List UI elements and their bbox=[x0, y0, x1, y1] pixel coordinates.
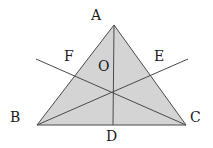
label-c: C bbox=[190, 109, 201, 125]
label-a: A bbox=[90, 7, 102, 23]
label-e: E bbox=[154, 48, 164, 64]
label-f: F bbox=[64, 48, 74, 64]
label-o: O bbox=[98, 58, 109, 74]
triangle-diagram: A B C D E F O bbox=[0, 0, 213, 148]
label-d: D bbox=[106, 128, 117, 144]
triangle-abc bbox=[37, 25, 186, 125]
label-b: B bbox=[10, 109, 20, 125]
